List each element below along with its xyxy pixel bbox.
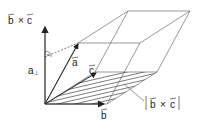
svg-text:a: a bbox=[72, 57, 78, 68]
projection-dashed-line bbox=[45, 43, 78, 57]
axis-label: b × c bbox=[8, 14, 33, 26]
area-label: b × c bbox=[146, 96, 179, 110]
axis-label-c: c bbox=[27, 15, 32, 26]
label-b: b bbox=[101, 109, 107, 121]
right-angle-dot bbox=[47, 54, 49, 56]
label-height: a ⊥ bbox=[28, 65, 39, 76]
right-angle-mark bbox=[45, 51, 51, 57]
svg-text:c: c bbox=[89, 65, 94, 76]
axis-label-cross: × bbox=[18, 15, 24, 26]
svg-text:⊥: ⊥ bbox=[34, 70, 39, 76]
parallelepiped-diagram: b × c a c b a ⊥ b × c bbox=[0, 0, 203, 129]
svg-text:b: b bbox=[101, 110, 107, 121]
svg-text:×: × bbox=[160, 99, 166, 110]
svg-text:c: c bbox=[170, 99, 175, 110]
svg-text:b: b bbox=[150, 99, 156, 110]
label-a: a bbox=[72, 57, 78, 68]
axis-label-b: b bbox=[8, 15, 14, 26]
